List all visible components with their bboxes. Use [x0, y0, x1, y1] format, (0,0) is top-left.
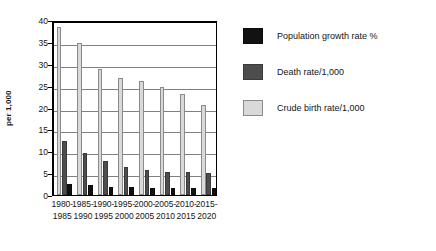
- bar: [118, 78, 123, 195]
- bar: [145, 170, 150, 195]
- bar: [171, 188, 176, 195]
- y-axis-ticks: 0510152025303540: [26, 21, 48, 196]
- bar: [139, 81, 144, 195]
- legend-item[interactable]: Death rate/1,000: [243, 58, 428, 86]
- legend-label: Crude birth rate/1,000: [277, 103, 365, 113]
- bar: [124, 167, 129, 195]
- legend-swatch-dark: [243, 28, 263, 44]
- y-tick-label: 5: [30, 170, 48, 178]
- bar: [150, 188, 155, 195]
- bar: [160, 87, 165, 196]
- bar-group: [198, 23, 219, 195]
- bar: [83, 153, 88, 195]
- legend-label: Population growth rate %: [277, 31, 378, 41]
- y-tick-label: 10: [30, 148, 48, 156]
- y-tick-mark: [48, 196, 52, 197]
- y-tick-label: 20: [30, 105, 48, 113]
- bar: [77, 43, 82, 195]
- bar: [98, 69, 103, 195]
- bar-group: [95, 23, 116, 195]
- bar-group: [116, 23, 137, 195]
- bar: [206, 173, 211, 195]
- legend-item[interactable]: Crude birth rate/1,000: [243, 94, 428, 122]
- y-axis-title-text: per 1,000: [4, 90, 13, 126]
- bar-chart-figure: per 1,000 0510152025303540 1980-19851985…: [0, 0, 436, 251]
- bar: [201, 105, 206, 195]
- bar: [57, 27, 62, 195]
- bar: [212, 188, 217, 195]
- bar: [109, 187, 114, 195]
- bar: [62, 141, 67, 195]
- y-tick-label: 15: [30, 126, 48, 134]
- legend-swatch-light: [243, 100, 263, 116]
- bar-group: [178, 23, 199, 195]
- bar: [191, 188, 196, 195]
- bar-group: [137, 23, 158, 195]
- bar-group: [75, 23, 96, 195]
- x-tick-label-line: 2020: [190, 211, 223, 223]
- bar: [180, 94, 185, 195]
- bar: [129, 187, 134, 195]
- bar: [88, 185, 93, 195]
- x-axis-labels: 1980-19851985-19901990-19951995-20002000…: [52, 199, 217, 235]
- y-tick-label: 35: [30, 39, 48, 47]
- bar: [103, 161, 108, 195]
- y-tick-label: 40: [30, 17, 48, 25]
- chart-legend: Population growth rate %Death rate/1,000…: [243, 22, 428, 130]
- x-tick-label-line: 2015-: [190, 199, 223, 211]
- legend-label: Death rate/1,000: [277, 67, 344, 77]
- plot-area: [52, 21, 217, 196]
- legend-swatch-gray: [243, 64, 263, 80]
- y-tick-label: 25: [30, 83, 48, 91]
- bar-group: [157, 23, 178, 195]
- bar-group: [54, 23, 75, 195]
- legend-item[interactable]: Population growth rate %: [243, 22, 428, 50]
- bar: [67, 184, 72, 195]
- bar: [186, 172, 191, 195]
- x-tick-label: 2015-2020: [190, 199, 223, 222]
- y-tick-label: 30: [30, 61, 48, 69]
- bar: [165, 172, 170, 195]
